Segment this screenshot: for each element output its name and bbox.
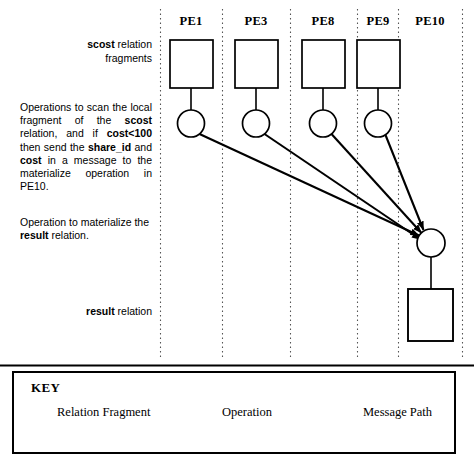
relation-fragment-pe9 <box>357 40 400 88</box>
operation-pe1 <box>178 110 205 137</box>
diagram-page: PE1 PE3 PE8 PE9 PE10 scost relationfragm… <box>0 0 474 470</box>
materialize-operation-pe10 <box>417 229 445 257</box>
result-relation-fragment <box>408 289 453 341</box>
relation-fragment-pe1 <box>170 40 213 88</box>
message-path-pe3-to-pe10 <box>265 134 421 240</box>
scan-operations <box>178 110 392 137</box>
key-title: KEY <box>31 380 60 396</box>
operation-pe8 <box>310 110 337 137</box>
operation-pe3 <box>243 110 270 137</box>
key-label-relation-fragment: Relation Fragment <box>57 405 150 420</box>
relation-fragments <box>170 40 400 88</box>
operation-pe9 <box>365 110 392 137</box>
relation-fragment-pe8 <box>302 40 345 88</box>
fragment-operation-connectors <box>191 88 378 110</box>
relation-fragment-pe3 <box>235 40 278 88</box>
message-paths <box>200 134 424 240</box>
key-label-operation: Operation <box>222 405 272 420</box>
message-path-pe1-to-pe10 <box>200 134 420 236</box>
message-path-pe8-to-pe10 <box>332 134 422 233</box>
key-label-message-path: Message Path <box>363 405 432 420</box>
